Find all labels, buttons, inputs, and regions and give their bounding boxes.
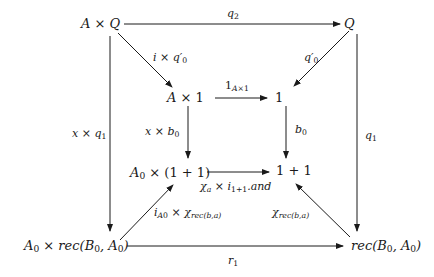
node-a-times-1: A × 1 [167, 91, 204, 104]
node-a0-times-rec: A0 × rec(B0, A0) [24, 239, 129, 254]
label-chirec: χrec(b,a) [272, 207, 309, 220]
node-1plus1: 1 + 1 [276, 164, 312, 177]
label-i-x-q0p: i × q′0 [153, 52, 187, 65]
label-1-Ax1: 1A×1 [225, 80, 249, 93]
label-q2: q2 [227, 8, 239, 21]
node-a-times-q: A × Q [81, 17, 120, 30]
node-rec: rec(B0, A0) [351, 239, 421, 254]
node-a0-times-1plus1: A0 × (1 + 1) [130, 166, 210, 181]
label-chi-a-x-i: χa × i1+1.and [200, 181, 271, 194]
node-q: Q [344, 17, 355, 30]
label-b0: b0 [295, 124, 307, 137]
label-q0p: q′0 [304, 52, 318, 65]
arrow-q0p [294, 31, 349, 86]
label-q1: q1 [365, 130, 377, 143]
node-1: 1 [275, 91, 283, 104]
label-iA0-x-chirec: iA0 × χrec(b,a) [154, 207, 221, 220]
label-x-x-b0: x × b0 [145, 126, 179, 139]
label-r1: r1 [228, 255, 238, 268]
label-x-x-q1: x × q1 [72, 128, 106, 141]
